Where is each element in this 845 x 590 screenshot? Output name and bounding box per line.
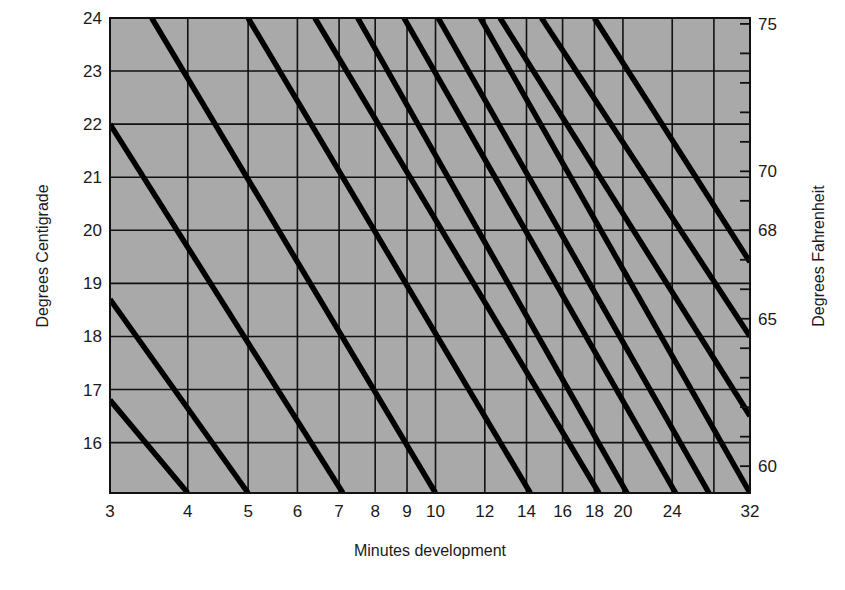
x-tick-label: 10	[426, 502, 445, 521]
x-tick-label: 18	[585, 502, 604, 521]
fahrenheit-tick-label: 65	[758, 310, 777, 329]
y-tick-label: 18	[83, 327, 102, 346]
x-tick-label: 16	[553, 502, 572, 521]
x-tick-label: 32	[741, 502, 760, 521]
x-tick-label: 8	[370, 502, 379, 521]
fahrenheit-tick-label: 60	[758, 457, 777, 476]
x-tick-label: 14	[517, 502, 536, 521]
y-tick-label: 24	[83, 9, 102, 28]
fahrenheit-tick-label: 70	[758, 162, 777, 181]
x-axis-title: Minutes development	[354, 542, 507, 559]
y-tick-label: 16	[83, 434, 102, 453]
y-axis-title: Degrees Centigrade	[34, 184, 51, 327]
fahrenheit-tick-label: 68	[758, 221, 777, 240]
x-tick-label: 20	[613, 502, 632, 521]
x-tick-label: 3	[105, 502, 114, 521]
y-tick-label: 23	[83, 62, 102, 81]
x-tick-label: 5	[243, 502, 252, 521]
x-tick-label: 7	[334, 502, 343, 521]
x-tick-label: 24	[663, 502, 682, 521]
fahrenheit-tick-label: 75	[758, 15, 777, 34]
y2-axis-title: Degrees Fahrenheit	[810, 185, 827, 327]
x-tick-label: 6	[293, 502, 302, 521]
y-tick-label: 17	[83, 381, 102, 400]
y-tick-label: 22	[83, 115, 102, 134]
x-axis-tick-labels: 34567891012141618202432	[105, 502, 759, 521]
x-tick-label: 9	[402, 502, 411, 521]
x-tick-label: 4	[183, 502, 192, 521]
y-tick-label: 20	[83, 221, 102, 240]
x-tick-label: 12	[475, 502, 494, 521]
y-axis-tick-labels: 161718192021222324	[83, 9, 102, 453]
plot-background	[110, 18, 750, 493]
time-temperature-chart: 34567891012141618202432 1617181920212223…	[0, 0, 845, 590]
y-tick-label: 19	[83, 274, 102, 293]
y-tick-label: 21	[83, 168, 102, 187]
plot-area	[110, 18, 750, 493]
